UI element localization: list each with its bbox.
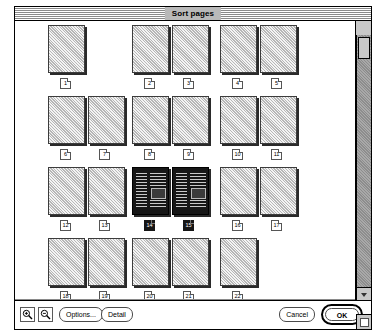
page-label-group: 23 <box>132 78 194 89</box>
preview-text-lines <box>150 200 166 209</box>
page-thumbnail[interactable] <box>132 238 169 286</box>
page-label-group: 1 <box>48 78 71 89</box>
page-thumbnail[interactable] <box>48 96 85 144</box>
page-sort-scroll-area[interactable]: 12345678910111213141516171819202122 <box>15 21 356 301</box>
page-number-label: 14 <box>144 220 155 231</box>
zoom-in-button[interactable] <box>20 307 35 322</box>
page-thumbnail[interactable] <box>220 25 257 73</box>
page-spread <box>48 238 125 286</box>
page-thumbnail[interactable] <box>220 167 257 215</box>
window-title: Sort pages <box>165 7 221 20</box>
page-label-group: 1213 <box>48 220 110 231</box>
detail-button[interactable]: Detail <box>101 307 133 322</box>
page-label-group: 89 <box>132 149 194 160</box>
preview-text-column <box>136 173 147 209</box>
ok-button[interactable]: OK <box>325 308 359 321</box>
page-grid-row: 1819202122 <box>15 234 356 301</box>
page-preview-content <box>173 168 208 214</box>
page-thumbnail[interactable] <box>220 96 257 144</box>
page-thumbnail[interactable] <box>172 238 209 286</box>
scroll-down-arrow-button[interactable] <box>357 287 371 301</box>
page-spread <box>132 238 209 286</box>
page-spread <box>220 25 297 73</box>
window-titlebar[interactable]: Sort pages <box>15 7 371 21</box>
page-thumbnail[interactable] <box>132 25 169 73</box>
page-number-label: 10 <box>232 149 243 160</box>
page-number-label: 12 <box>60 220 71 231</box>
page-thumbnail[interactable] <box>48 25 85 73</box>
page-label-group: 1011 <box>220 149 282 160</box>
preview-image-box <box>191 188 206 199</box>
page-spread <box>220 96 297 144</box>
cancel-button[interactable]: Cancel <box>279 307 315 322</box>
page-number-label: 1 <box>60 78 71 89</box>
page-thumbnail[interactable] <box>132 96 169 144</box>
vertical-scrollbar[interactable] <box>356 21 371 301</box>
page-number-label: 6 <box>60 149 71 160</box>
screenshot-root: Sort pages 12345678910111213141516171819… <box>0 0 388 336</box>
page-number-label: 2 <box>144 78 155 89</box>
page-thumbnail[interactable] <box>260 25 297 73</box>
scrollbar-track[interactable] <box>357 35 371 287</box>
page-thumbnail[interactable] <box>220 238 257 286</box>
page-label-group: 1415 <box>132 220 194 231</box>
sort-pages-window: Sort pages 12345678910111213141516171819… <box>14 6 372 330</box>
window-body: 12345678910111213141516171819202122 <box>15 21 371 329</box>
page-thumbnail[interactable] <box>172 167 209 215</box>
page-number-label: 13 <box>99 220 110 231</box>
page-thumbnail[interactable] <box>132 167 169 215</box>
page-spread <box>132 25 209 73</box>
page-thumbnail[interactable] <box>260 167 297 215</box>
page-spread <box>48 25 85 73</box>
page-spread <box>48 96 125 144</box>
magnifier-minus-icon <box>40 309 51 320</box>
page-thumbnail[interactable] <box>88 238 125 286</box>
page-preview-content <box>133 168 168 214</box>
page-grid: 12345678910111213141516171819202122 <box>15 21 356 301</box>
options-button[interactable]: Options... <box>59 307 103 322</box>
page-spread <box>48 167 125 215</box>
page-label-group: 45 <box>220 78 282 89</box>
bottom-toolbar: Options... Detail Cancel OK <box>15 300 371 329</box>
chevron-down-icon <box>361 293 367 297</box>
page-thumbnail[interactable] <box>48 167 85 215</box>
page-grid-row: 67891011 <box>15 92 356 163</box>
page-thumbnail[interactable] <box>172 25 209 73</box>
scrollbar-top-corner <box>356 21 371 35</box>
page-thumbnail[interactable] <box>88 167 125 215</box>
page-label-group: 1617 <box>220 220 282 231</box>
page-spread <box>132 167 209 215</box>
page-spread <box>220 238 257 286</box>
window-resize-grow-box[interactable] <box>356 314 371 329</box>
preview-text-block <box>190 173 206 186</box>
zoom-out-button[interactable] <box>38 307 53 322</box>
page-number-label: 7 <box>99 149 110 160</box>
preview-text-lines <box>190 200 206 209</box>
page-number-label: 5 <box>271 78 282 89</box>
page-number-label: 4 <box>232 78 243 89</box>
page-spread <box>132 96 209 144</box>
preview-text-block <box>150 173 166 186</box>
page-number-label: 17 <box>271 220 282 231</box>
page-thumbnail[interactable] <box>48 238 85 286</box>
page-thumbnail[interactable] <box>260 96 297 144</box>
page-grid-row: 12345 <box>15 21 356 92</box>
preview-image-box <box>151 188 166 199</box>
page-spread <box>220 167 297 215</box>
page-number-label: 9 <box>183 149 194 160</box>
preview-text-column <box>176 173 187 209</box>
page-number-label: 16 <box>232 220 243 231</box>
page-number-label: 15 <box>183 220 194 231</box>
page-thumbnail[interactable] <box>172 96 209 144</box>
page-label-group: 67 <box>48 149 110 160</box>
page-number-label: 3 <box>183 78 194 89</box>
page-number-label: 8 <box>144 149 155 160</box>
page-number-label: 11 <box>271 149 282 160</box>
scrollbar-thumb[interactable] <box>358 37 370 59</box>
page-grid-row: 121314151617 <box>15 163 356 234</box>
page-thumbnail[interactable] <box>88 96 125 144</box>
magnifier-plus-icon <box>22 309 33 320</box>
